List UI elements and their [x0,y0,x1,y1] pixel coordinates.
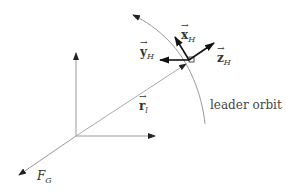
leader-position-vector [76,64,186,136]
label-y-hill: →yH [140,43,154,61]
label-z-hill: →zH [217,49,231,67]
label-r-leader: →rl [139,97,148,115]
label-x-hill: →xH [181,26,195,44]
label-inertial-frame: FG [37,170,52,185]
inertial-frame [19,53,155,175]
label-leader-orbit: leader orbit [210,99,282,111]
hill-z-axis [189,43,214,60]
